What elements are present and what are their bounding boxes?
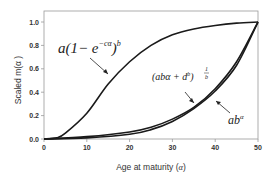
y-tick-label: 0.8	[29, 42, 39, 49]
y-axis-label: Scaled m(α )	[13, 56, 23, 105]
chart: 0.00.20.40.60.81.0 01020304050 Age at ma…	[0, 0, 277, 176]
arrow-head-icon	[189, 98, 194, 103]
y-tick-label: 0.6	[29, 65, 39, 72]
x-tick-label: 0	[42, 144, 46, 151]
annotation-sigmoid: a(1− e−cα)b	[58, 39, 121, 57]
y-tick-label: 0.0	[29, 136, 39, 143]
plot-frame	[44, 11, 258, 139]
annotation-generalized-pow-den: b	[205, 74, 208, 80]
y-tick-label: 0.2	[29, 112, 39, 119]
x-tick-label: 50	[254, 144, 262, 151]
x-tick-label: 10	[83, 144, 91, 151]
annotation-exponential: abα	[228, 113, 244, 127]
x-tick-label: 30	[169, 144, 177, 151]
annotation-generalized: (abα + db)	[152, 71, 194, 83]
y-axis: 0.00.20.40.60.81.0	[29, 19, 44, 143]
annotation-generalized-pow-num: 1	[205, 66, 208, 72]
x-tick-label: 40	[211, 144, 219, 151]
x-axis: 01020304050	[42, 139, 262, 151]
y-tick-label: 1.0	[29, 19, 39, 26]
x-tick-label: 20	[126, 144, 134, 151]
y-tick-label: 0.4	[29, 89, 39, 96]
x-axis-label: Age at maturity (α)	[116, 162, 186, 172]
